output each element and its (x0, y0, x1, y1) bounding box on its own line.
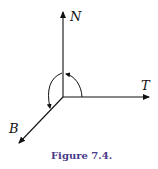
rotation-arc-n-to-b (49, 73, 63, 108)
rotation-arc-t-to-n (66, 74, 82, 97)
label-t: T (141, 78, 151, 93)
figure-caption: Figure 7.4. (51, 150, 112, 161)
binormal-axis (19, 97, 63, 143)
label-n: N (69, 9, 82, 24)
frenet-frame-diagram: N T B Figure 7.4. (0, 0, 158, 169)
label-b: B (8, 121, 19, 136)
